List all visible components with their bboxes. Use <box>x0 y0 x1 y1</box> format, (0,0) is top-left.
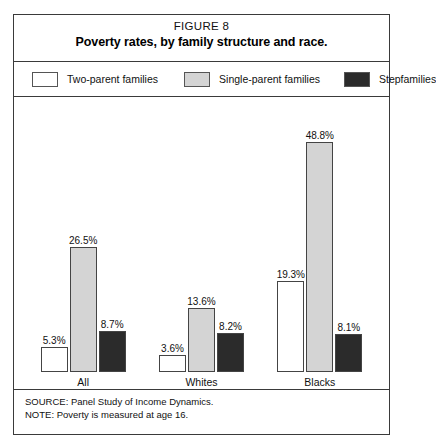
bar-value-label: 5.3% <box>43 335 66 346</box>
bar-column: 3.6% <box>159 100 186 372</box>
bar-column: 13.6% <box>188 100 215 372</box>
legend-swatch-icon-stepfamilies <box>344 72 370 87</box>
bar-whites-single-parent-families <box>188 308 215 372</box>
bar-whites-stepfamilies <box>217 333 244 372</box>
legend-item-single-parent-families: Single-parent families <box>184 72 320 87</box>
legend-item-stepfamilies: Stepfamilies <box>344 72 436 87</box>
bar-group-bars: 5.3%26.5%8.7% <box>41 100 126 372</box>
bar-all-single-parent-families <box>70 247 97 372</box>
bar-blacks-stepfamilies <box>335 334 362 372</box>
bar-value-label: 3.6% <box>161 343 184 354</box>
bar-column: 19.3% <box>277 100 304 372</box>
bar-value-label: 26.5% <box>69 235 97 246</box>
bar-blacks-single-parent-families <box>306 142 333 372</box>
legend-item-two-parent-families: Two-parent families <box>32 72 158 87</box>
bar-group-blacks: 19.3%48.8%8.1%Blacks <box>277 97 362 389</box>
bar-group-all: 5.3%26.5%8.7%All <box>41 97 126 389</box>
measurement-note: NOTE: Poverty is measured at age 16. <box>25 409 389 422</box>
figure-header: FIGURE 8 Poverty rates, by family struct… <box>14 15 389 62</box>
bar-value-label: 48.8% <box>306 130 334 141</box>
figure-footer: SOURCE: Panel Study of Income Dynamics. … <box>14 390 389 432</box>
bar-blacks-two-parent-families <box>277 281 304 372</box>
bar-group-bars: 19.3%48.8%8.1% <box>277 100 362 372</box>
bar-value-label: 13.6% <box>187 296 215 307</box>
bar-value-label: 8.1% <box>337 322 360 333</box>
source-note: SOURCE: Panel Study of Income Dynamics. <box>25 396 389 409</box>
legend-label-single-parent-families: Single-parent families <box>219 73 320 85</box>
bar-column: 48.8% <box>306 100 333 372</box>
x-axis-label-blacks: Blacks <box>304 375 335 389</box>
bar-group-whites: 3.6%13.6%8.2%Whites <box>159 97 244 389</box>
figure-number: FIGURE 8 <box>14 19 389 34</box>
bar-value-label: 8.7% <box>101 319 124 330</box>
figure-panel: FIGURE 8 Poverty rates, by family struct… <box>13 14 390 435</box>
x-axis-label-all: All <box>77 375 89 389</box>
bar-column: 26.5% <box>70 100 97 372</box>
bar-whites-two-parent-families <box>159 355 186 372</box>
legend-swatch-icon-single-parent-families <box>184 72 210 87</box>
bar-group-bars: 3.6%13.6%8.2% <box>159 100 244 372</box>
bar-column: 5.3% <box>41 100 68 372</box>
bar-value-label: 8.2% <box>219 321 242 332</box>
bar-column: 8.7% <box>99 100 126 372</box>
chart-legend: Two-parent families Single-parent famili… <box>14 62 389 97</box>
legend-swatch-icon-two-parent-families <box>32 72 58 87</box>
bar-column: 8.1% <box>335 100 362 372</box>
legend-label-stepfamilies: Stepfamilies <box>379 73 436 85</box>
chart-plot-area: 5.3%26.5%8.7%All3.6%13.6%8.2%Whites19.3%… <box>14 97 389 390</box>
figure-title: Poverty rates, by family structure and r… <box>14 34 389 51</box>
bar-groups: 5.3%26.5%8.7%All3.6%13.6%8.2%Whites19.3%… <box>14 97 389 389</box>
legend-label-two-parent-families: Two-parent families <box>67 73 158 85</box>
bar-all-two-parent-families <box>41 347 68 372</box>
bar-column: 8.2% <box>217 100 244 372</box>
x-axis-label-whites: Whites <box>185 375 217 389</box>
bar-all-stepfamilies <box>99 331 126 372</box>
bar-value-label: 19.3% <box>277 269 305 280</box>
